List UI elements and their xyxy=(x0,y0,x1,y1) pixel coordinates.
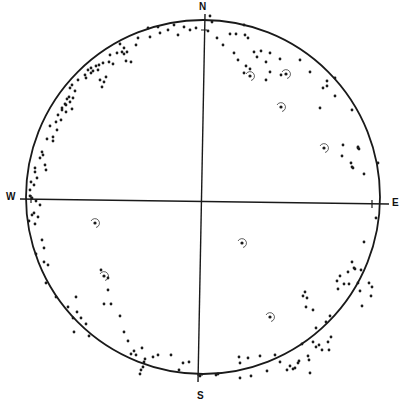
circled-pole-point xyxy=(279,105,282,108)
pole-point xyxy=(39,204,42,207)
pole-point xyxy=(65,104,68,107)
pole-point xyxy=(61,109,64,112)
pole-point xyxy=(45,282,48,285)
pole-point xyxy=(233,52,236,55)
pole-point xyxy=(250,375,253,378)
pole-point xyxy=(371,286,374,289)
pole-point xyxy=(363,173,366,176)
pole-point xyxy=(159,32,162,35)
pole-point xyxy=(239,362,242,365)
pole-point xyxy=(37,216,40,219)
pole-point xyxy=(80,317,83,320)
pole-point xyxy=(73,331,76,334)
pole-point xyxy=(92,70,95,73)
pole-point xyxy=(359,290,362,293)
pole-point xyxy=(199,375,202,378)
pole-point xyxy=(60,119,63,122)
pole-point xyxy=(253,51,256,54)
pole-point xyxy=(84,74,87,77)
pole-point xyxy=(55,121,58,124)
pole-point xyxy=(301,343,304,346)
pole-point xyxy=(116,52,119,55)
pole-point xyxy=(306,297,309,300)
pole-point xyxy=(347,271,350,274)
west-label: W xyxy=(6,191,15,202)
pole-point xyxy=(142,366,145,369)
south-label: S xyxy=(197,390,204,401)
pole-point xyxy=(336,280,339,283)
pole-point xyxy=(41,151,44,154)
pole-point xyxy=(326,85,329,88)
pole-point xyxy=(139,373,142,376)
pole-point xyxy=(269,52,272,55)
primitive-circle-outline xyxy=(26,20,380,374)
pole-point xyxy=(65,111,68,114)
circled-pole-point xyxy=(93,221,96,224)
east-label: E xyxy=(392,197,399,208)
pole-point xyxy=(195,27,198,30)
pole-point xyxy=(74,90,77,93)
pole-point xyxy=(90,72,93,75)
pole-point xyxy=(354,268,357,271)
pole-point xyxy=(343,283,346,286)
pole-point xyxy=(229,33,232,36)
pole-point xyxy=(237,59,240,62)
pole-point xyxy=(235,33,238,36)
pole-point xyxy=(318,344,321,347)
pole-point xyxy=(46,138,49,141)
north-label: N xyxy=(199,1,206,12)
pole-point xyxy=(260,50,263,53)
pole-point xyxy=(244,34,247,37)
primitive-circle xyxy=(26,20,380,374)
pole-point xyxy=(209,15,212,18)
north-south-axis xyxy=(198,14,205,382)
pole-point xyxy=(29,189,32,192)
pole-point xyxy=(31,214,34,217)
pole-point xyxy=(71,84,74,87)
pole-point xyxy=(348,283,351,286)
pole-point xyxy=(289,365,292,368)
pole-point xyxy=(207,30,210,33)
pole-point xyxy=(119,315,122,318)
pole-point xyxy=(97,69,100,72)
pole-point xyxy=(189,29,192,32)
pole-point xyxy=(133,350,136,353)
pole-point xyxy=(363,241,366,244)
pole-point xyxy=(342,144,345,147)
pole-point xyxy=(178,369,181,372)
pole-point xyxy=(286,369,289,372)
pole-point xyxy=(377,162,380,165)
pole-point xyxy=(130,61,133,64)
pole-point xyxy=(76,311,79,314)
pole-point xyxy=(69,87,72,90)
pole-point xyxy=(101,86,104,89)
pole-point xyxy=(307,355,310,358)
pole-point xyxy=(55,296,58,299)
pole-point xyxy=(294,367,297,370)
pole-point xyxy=(358,148,361,151)
pole-point xyxy=(112,63,115,66)
pole-point xyxy=(308,359,311,362)
pole-point xyxy=(321,349,324,352)
pole-point xyxy=(243,24,246,27)
ns-line xyxy=(198,14,205,382)
pole-point xyxy=(85,323,88,326)
pole-point xyxy=(351,261,354,264)
pole-point xyxy=(315,327,318,330)
pole-point xyxy=(57,114,60,117)
pole-point xyxy=(71,108,74,111)
pole-point xyxy=(309,71,312,74)
pole-point xyxy=(31,197,34,200)
pole-point xyxy=(135,354,138,357)
pole-point xyxy=(30,181,33,184)
pole-point xyxy=(121,51,124,54)
pole-point xyxy=(36,177,39,180)
pole-point xyxy=(173,24,176,27)
pole-point xyxy=(188,361,191,364)
pole-point xyxy=(34,171,37,174)
pole-point xyxy=(69,101,72,104)
pole-point xyxy=(329,315,332,318)
pole-point xyxy=(107,289,110,292)
pole-point xyxy=(322,87,325,90)
pole-point xyxy=(247,357,250,360)
